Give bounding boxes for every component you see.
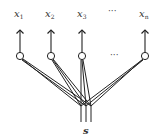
input-label-s: s [83, 125, 89, 136]
output-label-x2: x2 [45, 8, 55, 20]
output-label-x3: x3 [77, 8, 87, 20]
output-label-x1: x1 [14, 8, 23, 20]
node-n [141, 52, 148, 59]
output-label-xn: xn [139, 8, 149, 20]
node-2 [47, 52, 54, 59]
ellipsis-middle: ··· [110, 50, 119, 60]
node-1 [16, 52, 23, 59]
node-3 [78, 52, 85, 59]
network-diagram: x1 x2 x3 ··· xn ··· s [0, 0, 163, 139]
ellipsis-top: ··· [108, 6, 117, 16]
connections [22, 59, 143, 122]
